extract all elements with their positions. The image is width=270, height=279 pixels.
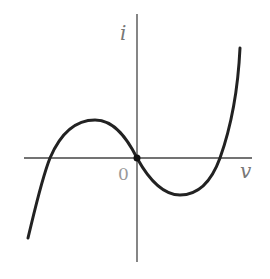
y-axis-label: i xyxy=(120,21,126,45)
origin-point xyxy=(134,155,141,162)
origin-label: 0 xyxy=(118,164,129,184)
x-axis-label: v xyxy=(240,159,252,183)
iv-curve xyxy=(28,48,240,238)
iv-diagram: i v 0 xyxy=(0,0,270,279)
